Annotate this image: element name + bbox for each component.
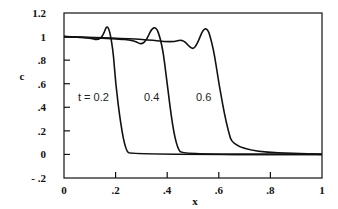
annotation-t02: t = 0.2 bbox=[78, 91, 109, 103]
x-tick-label: .2 bbox=[111, 184, 120, 196]
x-ticks: 0.2.4.6.81 bbox=[61, 172, 325, 196]
y-tick-label: 0 bbox=[41, 148, 47, 160]
x-tick-label: .8 bbox=[266, 184, 275, 196]
annotation-t04: 0.4 bbox=[144, 91, 159, 103]
x-tick-label: .6 bbox=[215, 184, 224, 196]
y-tick-label: .6 bbox=[38, 78, 47, 90]
chart: 1.21.8.6.4.20- .2 0.2.4.6.81 x c t = 0.2… bbox=[0, 0, 338, 209]
y-tick-label: 1.2 bbox=[32, 7, 46, 19]
annotation-t06: 0.6 bbox=[196, 91, 211, 103]
x-axis-label: x bbox=[192, 195, 198, 207]
y-tick-label: .2 bbox=[38, 125, 47, 137]
y-tick-label: .8 bbox=[38, 54, 47, 66]
y-tick-label: - .2 bbox=[31, 172, 46, 184]
x-tick-label: .4 bbox=[163, 184, 172, 196]
y-tick-label: .4 bbox=[38, 101, 47, 113]
y-axis-label: c bbox=[20, 70, 25, 82]
x-tick-label: 1 bbox=[319, 184, 325, 196]
x-tick-label: 0 bbox=[61, 184, 67, 196]
y-tick-label: 1 bbox=[41, 31, 47, 43]
